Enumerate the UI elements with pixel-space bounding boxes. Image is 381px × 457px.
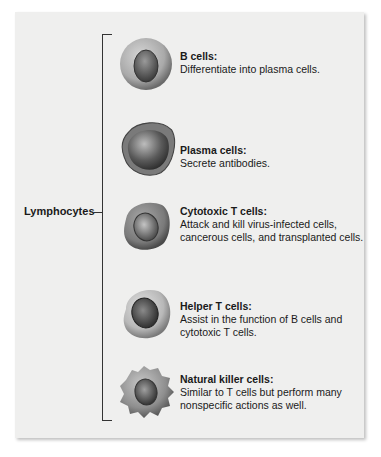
cell-description: Differentiate into plasma cells.	[180, 63, 380, 76]
bracket-bottom-tick	[103, 420, 112, 421]
lymphocytes-bracket	[102, 34, 113, 421]
b-cell-icon	[118, 36, 174, 92]
cell-description: Similar to T cells but perform many nons…	[180, 386, 380, 412]
cytotoxic-t-cell-icon	[118, 197, 174, 253]
cell-title: Cytotoxic T cells:	[180, 205, 380, 218]
cell-title: Helper T cells:	[180, 300, 380, 313]
cell-title: B cells:	[180, 50, 380, 63]
cell-description: Assist in the function of B cells and cy…	[180, 313, 380, 339]
group-label: Lymphocytes	[24, 205, 95, 217]
cell-title: Plasma cells:	[180, 144, 380, 157]
helper-t-cell-icon	[118, 285, 174, 341]
cell-title: Natural killer cells:	[180, 373, 380, 386]
bracket-top-tick	[103, 34, 112, 35]
natural-killer-cell-icon	[118, 364, 174, 420]
cell-description: Attack and kill virus-infected cells, ca…	[180, 218, 380, 244]
group-connector	[94, 212, 102, 213]
cell-description: Secrete antibodies.	[180, 157, 380, 170]
plasma-cell-icon	[118, 115, 178, 179]
